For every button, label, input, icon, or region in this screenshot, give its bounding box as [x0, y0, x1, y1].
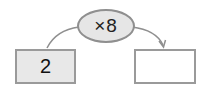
input-connector-line [47, 27, 79, 48]
operation-label: ×8 [94, 15, 118, 37]
multiplication-diagram: ×8 2 [0, 0, 205, 89]
operation-ellipse: ×8 [77, 9, 135, 43]
output-box[interactable] [134, 49, 196, 84]
input-box: 2 [15, 49, 76, 84]
input-value: 2 [40, 55, 51, 78]
output-arrow-line [132, 27, 163, 45]
